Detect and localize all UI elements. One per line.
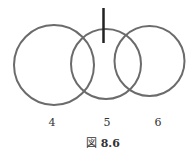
circle-5 [71,29,141,99]
circles-diagram [0,0,195,160]
circle-4 [14,25,94,105]
caption-prefix: 図 [86,137,97,150]
caption-number: 8.6 [101,137,120,150]
circle-6 [115,26,185,96]
figure-caption: 図 8.6 [86,138,120,149]
circle-label-6: 6 [155,117,162,128]
circle-label-4: 4 [49,117,56,128]
circle-label-5: 5 [104,117,111,128]
